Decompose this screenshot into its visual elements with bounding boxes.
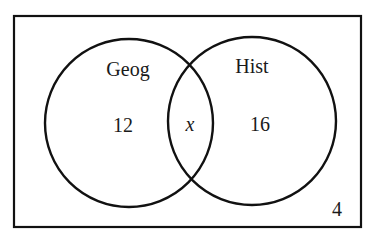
hist-only-value: 16 (250, 113, 270, 135)
venn-diagram: Geog Hist 12 x 16 4 (0, 0, 374, 232)
hist-label: Hist (235, 55, 269, 77)
geog-label: Geog (106, 58, 149, 81)
outside-value: 4 (332, 198, 342, 220)
intersection-value: x (185, 113, 195, 135)
geog-only-value: 12 (113, 114, 133, 136)
